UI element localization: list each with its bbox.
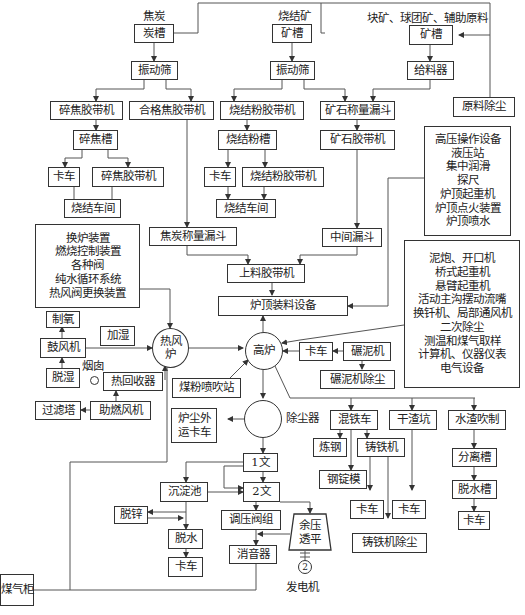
ore-weigh-hopper-box: 矿石称量漏斗 xyxy=(320,101,395,120)
sinter-label: 烧结矿 xyxy=(278,11,311,23)
sinter-fines-belt-box: 烧结粉胶带机 xyxy=(220,101,304,120)
coke-screen-box: 振动筛 xyxy=(131,61,178,80)
torpedo-box: 混铁车 xyxy=(330,410,378,430)
humidify-box: 加湿 xyxy=(100,326,135,346)
sinter-bin-box: 矿槽 xyxy=(272,24,312,43)
sinter-screen-box: 振动筛 xyxy=(270,61,315,80)
mud-mill-dust-box: 碾泥机除尘 xyxy=(320,370,395,389)
crushed-coke-belt-box: 碎焦胶带机 xyxy=(50,101,123,120)
truck-box: 卡车 xyxy=(350,500,384,519)
venturi1-box: 1文 xyxy=(243,453,278,472)
filter-tower-box: 过滤塔 xyxy=(35,401,81,420)
coal-injection-box: 煤粉喷吹站 xyxy=(172,378,241,398)
gas-holder-box: 煤气柜 xyxy=(0,574,34,606)
ingot-mold-box: 钢锭模 xyxy=(319,470,367,489)
heat-recovery-box: 热回收器 xyxy=(103,372,163,391)
sinter-shop-box: 烧结车间 xyxy=(64,199,121,218)
sinter-fines-belt2-box: 烧结粉胶带机 xyxy=(242,167,324,187)
dry-slag-pit-box: 干渣坑 xyxy=(389,410,437,430)
lump-bin-box: 矿槽 xyxy=(409,25,453,45)
trt-label: 余压透平 xyxy=(295,520,325,546)
chimney-label: 烟囱 xyxy=(82,361,104,373)
dust-truck-box: 炉尘外运卡车 xyxy=(171,408,217,443)
steelmaking-box: 炼钢 xyxy=(313,438,347,457)
truck-box: 卡车 xyxy=(204,167,236,187)
charging-belt-box: 上料胶带机 xyxy=(227,264,305,283)
oxygen-box: 制氧 xyxy=(46,311,80,328)
truck-box: 卡车 xyxy=(48,167,80,187)
coke-bin-box: 炭槽 xyxy=(134,24,174,43)
truck-box: 卡车 xyxy=(299,342,333,361)
truck-box: 卡车 xyxy=(168,557,203,577)
generator-icon: 2 xyxy=(298,560,312,574)
combustion-fan-box: 助燃风机 xyxy=(90,401,151,420)
dust-collector-node xyxy=(244,400,282,438)
sinter-shop-box: 烧结车间 xyxy=(216,199,276,218)
blower-box: 鼓风机 xyxy=(40,338,86,358)
muffler-box: 消音器 xyxy=(229,545,277,564)
qualified-coke-belt-box: 合格焦胶带机 xyxy=(129,101,214,120)
pressure-valve-box: 调压阀组 xyxy=(221,510,281,530)
dehumidify-box: 脱湿 xyxy=(46,368,80,388)
top-equipment-list: 高压操作设备 液压站 集中润滑 探尺 炉顶起重机 炉顶点火装置 炉顶喷水 xyxy=(424,126,511,236)
separator-box: 分离槽 xyxy=(452,448,497,467)
stove-equipment-list: 换炉装置 燃烧控制装置 各种阀 纯水循环系统 热风阀更换装置 xyxy=(35,224,140,308)
truck-box: 卡车 xyxy=(392,500,426,519)
pig-caster-box: 铸铁机 xyxy=(357,438,405,457)
dewater-box: 脱水 xyxy=(168,529,203,549)
casthouse-equipment-list: 泥炮、开口机 桥式起重机 悬臂起重机 活动主沟摆动流嘴 换钎机、局部通风机 二次… xyxy=(404,240,520,388)
crushed-coke-belt2-box: 碎焦胶带机 xyxy=(92,167,164,187)
hot-stove-node: 热风 炉 xyxy=(152,328,189,368)
mud-mill-box: 碾泥机 xyxy=(343,342,391,361)
blast-furnace-node: 高炉 xyxy=(245,332,283,370)
coke-weigh-hopper-box: 焦炭称量漏斗 xyxy=(149,227,237,246)
top-charging-box: 炉顶装料设备 xyxy=(218,296,348,316)
dust-collector-label: 除尘器 xyxy=(286,413,319,425)
raw-dust-box: 原料除尘 xyxy=(453,97,515,117)
dezinc-box: 脱锌 xyxy=(114,506,148,524)
truck-box: 卡车 xyxy=(458,511,490,530)
venturi2-box: 2文 xyxy=(243,482,280,502)
dewater-tank-box: 脱水槽 xyxy=(452,480,497,499)
feeder-box: 给料器 xyxy=(407,61,454,80)
generator-label: 发电机 xyxy=(286,582,319,594)
chimney-icon xyxy=(90,376,99,385)
mid-hopper-box: 中间漏斗 xyxy=(322,228,382,247)
settling-box: 沉淀池 xyxy=(160,482,208,502)
water-slag-box: 水渣吹制 xyxy=(448,410,506,430)
crushed-coke-bin-box: 碎焦槽 xyxy=(73,130,118,150)
lump-ore-label: 块矿、球团矿、辅助原料 xyxy=(367,13,488,25)
caster-dust-box: 铸铁机除尘 xyxy=(352,533,427,553)
coke-label: 焦炭 xyxy=(143,11,165,23)
ore-belt-box: 矿石胶带机 xyxy=(320,130,395,150)
sinter-fines-bin-box: 烧结粉槽 xyxy=(218,130,277,150)
